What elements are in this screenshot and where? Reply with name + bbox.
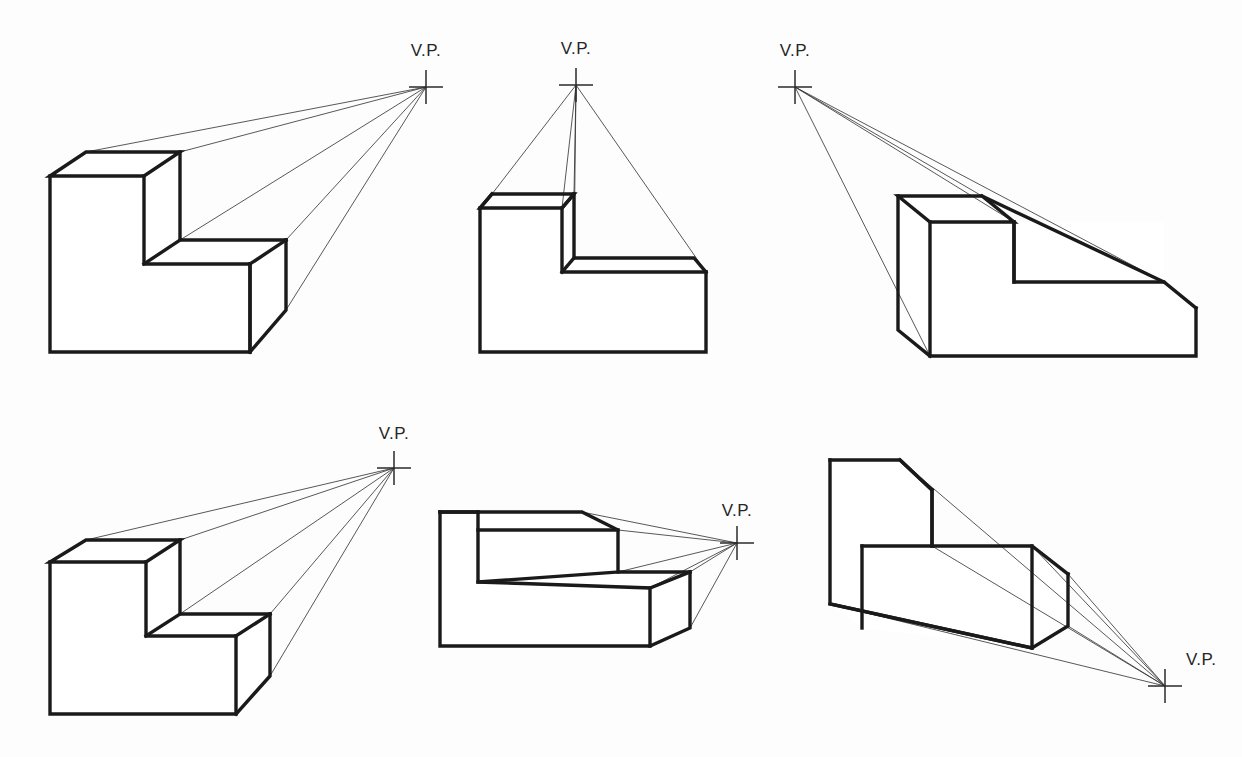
figure-5-projector-line-2: [618, 530, 737, 543]
figure-2-vp-label: V.P.: [561, 39, 591, 58]
figure-5-projector-line-5: [690, 543, 737, 628]
figure-2-face-top-lower: [562, 258, 706, 272]
figure-6: V.P.: [830, 460, 1216, 703]
figure-1-projector-line-5: [286, 87, 426, 310]
figure-6-vanishing-point-marker[interactable]: [1148, 669, 1182, 703]
figure-4-vanishing-point-marker[interactable]: [377, 451, 411, 485]
figure-1-projector-line-3: [180, 87, 426, 240]
figure-6-projector-line-3: [1068, 574, 1165, 686]
figure-3-projector-line-1: [795, 87, 982, 196]
figure-3-vp-label: V.P.: [780, 41, 810, 60]
figure-6-vp-label: V.P.: [1186, 650, 1216, 669]
figure-1-object-edge-2: [180, 152, 286, 240]
figure-2-face-front: [480, 208, 706, 352]
figure-5-projector-line-3: [618, 543, 737, 572]
figure-5: V.P.: [440, 501, 754, 646]
figure-4-projector-line-4: [270, 468, 394, 614]
figure-4: V.P.: [50, 424, 411, 714]
figure-4-projector-line-2: [180, 468, 394, 540]
perspective-drawing-canvas: V.P.V.P.V.P.V.P.V.P.V.P.: [0, 0, 1242, 757]
figure-4-projector-line-3: [180, 468, 394, 614]
drawing-sheet: V.P.V.P.V.P.V.P.V.P.V.P.: [0, 0, 1242, 757]
figure-1-projector-line-2: [180, 87, 426, 152]
figure-1: V.P.: [50, 41, 443, 352]
figure-1-vp-label: V.P.: [411, 41, 441, 60]
figure-2: V.P.: [480, 39, 706, 352]
figure-1-vanishing-point-marker[interactable]: [409, 70, 443, 104]
figure-2-projector-line-5: [576, 85, 706, 272]
figure-4-face-front: [50, 562, 236, 714]
figure-4-projector-line-1: [86, 468, 394, 540]
figure-4-object-edge-2: [180, 540, 270, 614]
figure-5-projector-line-4: [690, 543, 737, 572]
figure-2-projector-line-1: [492, 85, 576, 194]
figure-4-vp-label: V.P.: [379, 424, 409, 443]
figure-4-projector-line-5: [270, 468, 394, 676]
figure-5-vanishing-point-marker[interactable]: [720, 526, 754, 560]
figure-2-vanishing-point-marker[interactable]: [559, 68, 593, 102]
figure-3: V.P.: [778, 41, 1196, 356]
figure-2-face-top-upper: [480, 194, 574, 208]
figure-5-vp-label: V.P.: [722, 501, 752, 520]
figure-3-vanishing-point-marker[interactable]: [778, 70, 812, 104]
